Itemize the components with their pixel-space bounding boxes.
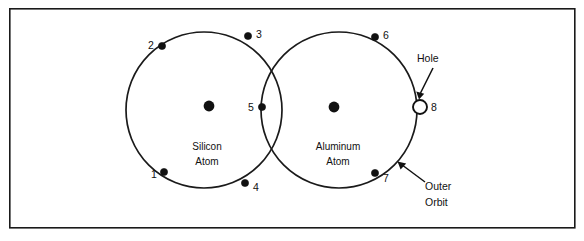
outer-orbit-annotation-line2: Orbit bbox=[425, 196, 448, 208]
silicon-atom-label-line1: Silicon bbox=[192, 141, 221, 152]
silicon-atom-label-line2: Atom bbox=[195, 156, 218, 167]
electron-dot-1 bbox=[160, 168, 167, 175]
hole-annotation-text: Hole bbox=[417, 52, 439, 64]
aluminum-atom-label-line2: Atom bbox=[326, 156, 349, 167]
electron-dot-2 bbox=[158, 42, 165, 49]
silicon-nucleus bbox=[204, 101, 215, 112]
aluminum-atom-label-line1: Aluminum bbox=[316, 141, 360, 152]
electron-dot-4 bbox=[241, 179, 248, 186]
electron-label-1: 1 bbox=[151, 168, 157, 180]
hole-circle bbox=[413, 100, 427, 114]
outer-orbit-annotation-line1: Outer bbox=[425, 180, 452, 192]
electron-dot-5 bbox=[258, 103, 265, 110]
electron-label-6: 6 bbox=[383, 29, 389, 41]
atom-bond-diagram: Silicon Atom Aluminum Atom 1 2 3 4 5 6 7… bbox=[0, 0, 584, 241]
electron-label-5: 5 bbox=[248, 101, 254, 113]
hole-label-8: 8 bbox=[431, 101, 437, 113]
aluminum-nucleus bbox=[329, 102, 340, 113]
figure-frame bbox=[10, 9, 575, 228]
electron-label-7: 7 bbox=[383, 172, 389, 184]
electron-dot-3 bbox=[244, 32, 251, 39]
electron-dot-6 bbox=[371, 33, 378, 40]
electron-label-4: 4 bbox=[253, 181, 259, 193]
electron-label-3: 3 bbox=[256, 28, 262, 40]
figure-container: Silicon Atom Aluminum Atom 1 2 3 4 5 6 7… bbox=[0, 0, 584, 241]
electron-dot-7 bbox=[371, 169, 378, 176]
electron-label-2: 2 bbox=[148, 39, 154, 51]
